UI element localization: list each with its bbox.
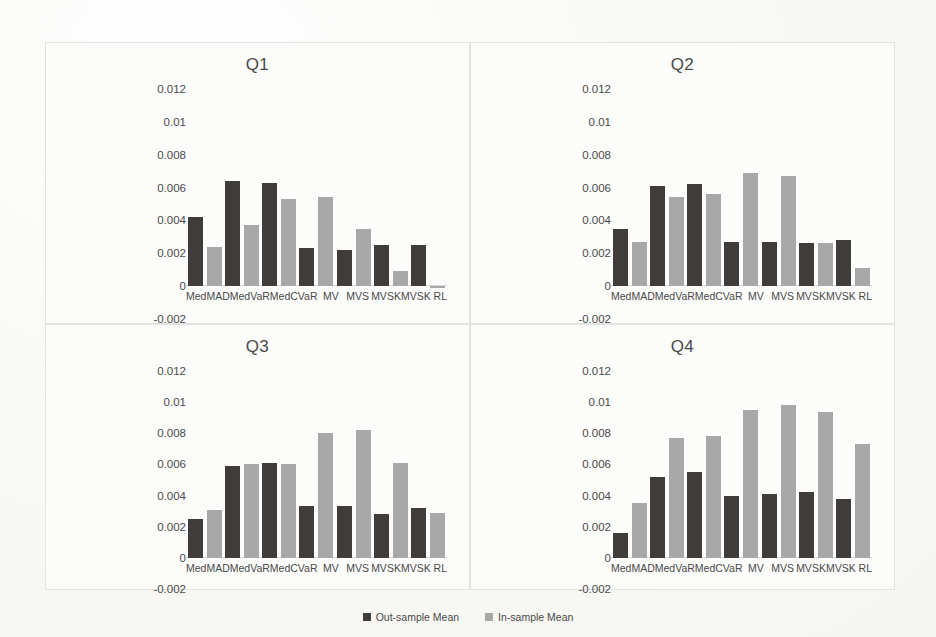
y-axis-q2: 0.0120.010.0080.0060.0040.0020-0.002	[545, 89, 611, 319]
bar-in-sample[interactable]	[855, 268, 870, 286]
legend-item[interactable]: In-sample Mean	[485, 611, 573, 623]
bar-out-sample[interactable]	[262, 463, 277, 558]
legend-label: In-sample Mean	[498, 611, 573, 623]
x-tick-label: MVS	[769, 290, 796, 302]
y-tick-label: 0.002	[157, 247, 186, 259]
bar-out-sample[interactable]	[613, 229, 628, 287]
bar-out-sample[interactable]	[613, 533, 628, 558]
bar-in-sample[interactable]	[669, 197, 684, 286]
bar-out-sample[interactable]	[299, 248, 314, 286]
bar-in-sample[interactable]	[393, 271, 408, 286]
bar-out-sample[interactable]	[650, 477, 665, 558]
bar-group	[410, 371, 447, 589]
bar-out-sample[interactable]	[724, 496, 739, 558]
bar-in-sample[interactable]	[207, 510, 222, 558]
bar-in-sample[interactable]	[393, 463, 408, 558]
x-tick-label: MVSK RL	[826, 290, 872, 302]
bar-in-sample[interactable]	[706, 436, 721, 557]
x-tick-label: MVS	[769, 562, 796, 574]
bar-out-sample[interactable]	[188, 217, 203, 286]
bar-groups-q4	[611, 371, 872, 589]
bar-in-sample[interactable]	[356, 229, 371, 287]
bar-in-sample[interactable]	[244, 225, 259, 286]
bar-out-sample[interactable]	[687, 184, 702, 286]
y-tick-label: 0.012	[582, 365, 611, 377]
bar-out-sample[interactable]	[225, 181, 240, 286]
bar-out-sample[interactable]	[762, 242, 777, 286]
bar-group	[298, 371, 335, 589]
y-tick-label: 0.006	[582, 182, 611, 194]
bar-in-sample[interactable]	[781, 176, 796, 286]
bar-in-sample[interactable]	[318, 197, 333, 286]
x-axis-q2: MedMADMedVaRMedCVaRMVMVSMVSKMVSK RL	[611, 290, 872, 302]
bar-out-sample[interactable]	[799, 492, 814, 557]
bar-in-sample[interactable]	[669, 438, 684, 558]
bar-in-sample[interactable]	[244, 464, 259, 557]
bar-out-sample[interactable]	[411, 508, 426, 558]
y-tick-label: 0.01	[589, 396, 611, 408]
bar-group	[410, 89, 447, 319]
chart-title-q1: Q1	[46, 55, 469, 75]
x-axis-q3: MedMADMedVaRMedCVaRMVMVSMVSKMVSK RL	[186, 562, 447, 574]
x-tick-label: MV	[743, 290, 770, 302]
plot-q1: 0.0120.010.0080.0060.0040.0020-0.002 Med…	[120, 89, 447, 319]
bar-out-sample[interactable]	[225, 466, 240, 558]
bar-in-sample[interactable]	[818, 243, 833, 286]
x-tick-label: MedVaR	[655, 290, 695, 302]
bar-out-sample[interactable]	[762, 494, 777, 558]
y-tick-label: 0.004	[157, 490, 186, 502]
bar-in-sample[interactable]	[430, 286, 445, 288]
bar-out-sample[interactable]	[836, 499, 851, 558]
bar-group	[835, 371, 872, 589]
bar-out-sample[interactable]	[411, 245, 426, 286]
y-tick-label: 0.006	[157, 182, 186, 194]
bar-out-sample[interactable]	[262, 183, 277, 287]
bar-group	[372, 371, 409, 589]
bar-in-sample[interactable]	[430, 513, 445, 558]
bar-out-sample[interactable]	[687, 472, 702, 558]
plot-area-q4	[611, 371, 872, 589]
figure-legend: Out-sample MeanIn-sample Mean	[0, 611, 936, 623]
bar-group	[835, 89, 872, 319]
legend-label: Out-sample Mean	[376, 611, 459, 623]
bar-in-sample[interactable]	[706, 194, 721, 286]
bar-group	[261, 89, 298, 319]
chart-panel-q2: Q2 0.0120.010.0080.0060.0040.0020-0.002 …	[470, 42, 895, 324]
bar-in-sample[interactable]	[318, 433, 333, 558]
bar-in-sample[interactable]	[632, 242, 647, 286]
x-tick-label: MedCVaR	[695, 290, 743, 302]
bar-group	[335, 89, 372, 319]
legend-swatch-icon	[485, 613, 493, 621]
bar-out-sample[interactable]	[374, 514, 389, 558]
bar-in-sample[interactable]	[855, 444, 870, 558]
bar-in-sample[interactable]	[281, 464, 296, 557]
bar-in-sample[interactable]	[743, 173, 758, 286]
y-tick-label: 0.006	[582, 458, 611, 470]
bar-in-sample[interactable]	[207, 247, 222, 286]
bar-out-sample[interactable]	[337, 250, 352, 286]
bar-in-sample[interactable]	[356, 430, 371, 558]
plot-area-q3	[186, 371, 447, 589]
y-tick-label: 0.01	[589, 116, 611, 128]
y-tick-label: 0.01	[164, 116, 186, 128]
bar-out-sample[interactable]	[724, 242, 739, 286]
bar-group	[298, 89, 335, 319]
bar-out-sample[interactable]	[188, 519, 203, 558]
bar-group	[760, 89, 797, 319]
bar-out-sample[interactable]	[299, 506, 314, 557]
bar-out-sample[interactable]	[799, 243, 814, 286]
bar-in-sample[interactable]	[818, 412, 833, 558]
y-tick-label: 0.012	[582, 83, 611, 95]
bar-out-sample[interactable]	[374, 245, 389, 286]
bar-in-sample[interactable]	[632, 503, 647, 558]
y-tick-label: -0.002	[578, 583, 611, 595]
bar-in-sample[interactable]	[743, 410, 758, 558]
bar-groups-q3	[186, 371, 447, 589]
bar-out-sample[interactable]	[337, 506, 352, 557]
bar-in-sample[interactable]	[281, 199, 296, 286]
bar-out-sample[interactable]	[650, 186, 665, 286]
bar-out-sample[interactable]	[836, 240, 851, 286]
legend-item[interactable]: Out-sample Mean	[363, 611, 459, 623]
bar-in-sample[interactable]	[781, 405, 796, 558]
y-tick-label: 0.004	[157, 214, 186, 226]
